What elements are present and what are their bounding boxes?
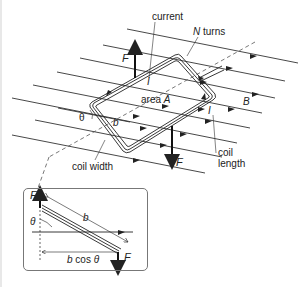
current-top-symbol: I [147,77,150,87]
inset-b-label: b [83,213,89,223]
coil-length-label-line1: coil [218,148,233,158]
turns-word: turns [200,26,225,37]
force-top-label: F [122,53,129,64]
force-bottom-label: F [176,157,183,168]
current-right-symbol: I [208,106,211,116]
current-label: current [152,12,183,22]
area-symbol: A [164,94,171,105]
area-word: area [141,94,164,105]
inset-bcos-label: b cos θ [67,255,99,265]
coil-in-magnetic-field-diagram: current N turns F I area A B I θ b coil … [0,0,305,287]
inset-theta-label: θ [30,217,35,227]
field-b-label: B [243,97,250,107]
inset-force-bottom-label: F [124,252,131,263]
b-label: b [113,118,119,128]
theta-label: θ [79,113,85,123]
coil-length-label-line2: length [218,159,245,169]
bcos-theta: θ [94,254,99,265]
bcos-cos: cos [73,254,94,265]
area-label: area A [141,95,170,105]
inset-force-top-label: F [30,190,37,201]
coil-width-label: coil width [72,162,113,172]
n-turns-label: N turns [193,27,225,37]
